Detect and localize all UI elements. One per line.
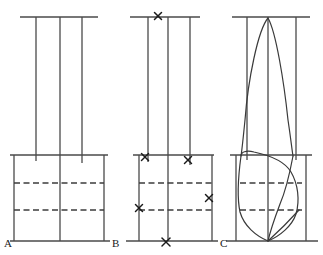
three-panel-technical-diagram: ABC [0, 0, 323, 255]
diagram-canvas: ABC [0, 0, 323, 255]
panel-label-a: A [4, 237, 12, 249]
panel-label-b: B [112, 237, 119, 249]
panel-label-c: C [220, 237, 227, 249]
